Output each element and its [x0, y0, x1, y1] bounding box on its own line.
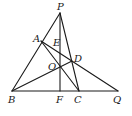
label-d: D: [73, 53, 82, 64]
label-b: B: [7, 94, 15, 105]
point-labels: P A E D O B F C Q: [7, 1, 121, 105]
label-q: Q: [113, 94, 121, 105]
segments: [12, 13, 118, 91]
label-e: E: [52, 37, 61, 48]
label-o: O: [48, 61, 56, 72]
label-c: C: [74, 94, 82, 105]
label-a: A: [32, 33, 40, 44]
geometry-figure: P A E D O B F C Q: [0, 0, 132, 116]
label-f: F: [55, 94, 64, 105]
label-p: P: [56, 1, 64, 12]
